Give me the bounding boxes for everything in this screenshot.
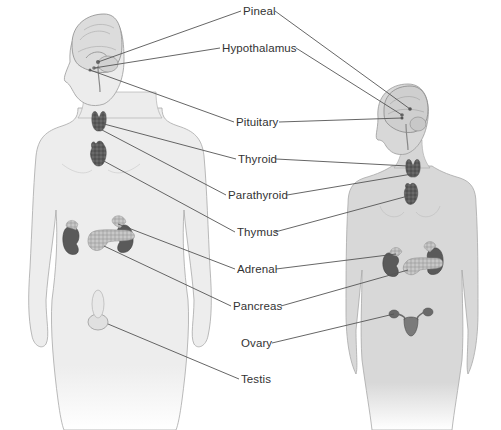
male-figure	[29, 14, 212, 430]
label-pituitary: Pituitary	[236, 116, 278, 129]
label-parathyroid: Parathyroid	[228, 189, 288, 202]
label-hypothalamus: Hypothalamus	[222, 42, 297, 55]
label-pineal: Pineal	[243, 5, 276, 18]
illustration	[0, 0, 501, 430]
label-ovary: Ovary	[241, 337, 272, 350]
label-thyroid: Thyroid	[238, 153, 277, 166]
label-testis: Testis	[241, 373, 271, 386]
label-pancreas: Pancreas	[233, 300, 282, 313]
label-thymus: Thymus	[237, 226, 279, 239]
label-adrenal: Adrenal	[237, 263, 277, 276]
endocrine-diagram: Pineal Hypothalamus Pituitary Thyroid Pa…	[0, 0, 501, 430]
female-figure	[346, 84, 478, 430]
